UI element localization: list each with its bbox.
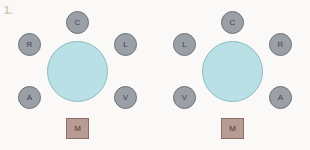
- left-diagram: C R L A V M: [0, 0, 155, 150]
- left-diagram-node-upper-right[interactable]: L: [114, 33, 137, 56]
- right-diagram: C L R V A M: [155, 0, 310, 150]
- right-diagram-node-upper-left-label: L: [182, 41, 186, 49]
- left-diagram-node-upper-left-label: R: [27, 41, 33, 49]
- left-diagram-node-lower-right-label: V: [123, 94, 128, 102]
- left-diagram-node-top-label: C: [75, 19, 81, 27]
- right-diagram-node-top[interactable]: C: [221, 11, 244, 34]
- right-diagram-node-lower-left[interactable]: V: [173, 86, 196, 109]
- left-diagram-node-lower-left[interactable]: A: [18, 86, 41, 109]
- right-diagram-node-upper-right-label: R: [278, 41, 284, 49]
- right-diagram-node-lower-right-label: A: [278, 94, 283, 102]
- left-diagram-node-upper-right-label: L: [123, 41, 127, 49]
- left-diagram-node-lower-right[interactable]: V: [114, 86, 137, 109]
- right-diagram-node-upper-left[interactable]: L: [173, 33, 196, 56]
- diagram-canvas: 1. C R L A V M C L R: [0, 0, 310, 150]
- left-diagram-square-node-label: M: [74, 125, 81, 133]
- right-diagram-square-node[interactable]: M: [221, 118, 244, 139]
- right-diagram-node-lower-right[interactable]: A: [269, 86, 292, 109]
- left-diagram-node-top[interactable]: C: [66, 11, 89, 34]
- right-diagram-node-upper-right[interactable]: R: [269, 33, 292, 56]
- left-diagram-square-node[interactable]: M: [66, 118, 89, 139]
- right-diagram-hub-circle: [202, 41, 263, 102]
- left-diagram-node-upper-left[interactable]: R: [18, 33, 41, 56]
- right-diagram-node-lower-left-label: V: [182, 94, 187, 102]
- left-diagram-node-lower-left-label: A: [27, 94, 32, 102]
- right-diagram-square-node-label: M: [229, 125, 236, 133]
- right-diagram-node-top-label: C: [230, 19, 236, 27]
- left-diagram-hub-circle: [47, 41, 108, 102]
